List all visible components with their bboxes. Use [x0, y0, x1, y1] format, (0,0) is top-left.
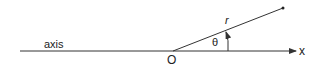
angle-label: θ [212, 36, 218, 48]
x-label: x [299, 44, 305, 58]
radius-label: r [225, 14, 230, 26]
polar-diagram: axis O x r θ [0, 0, 322, 66]
point-dot [282, 7, 285, 10]
axis-label: axis [44, 38, 64, 50]
angle-arc-arrow [226, 32, 228, 51]
origin-label: O [167, 53, 176, 66]
